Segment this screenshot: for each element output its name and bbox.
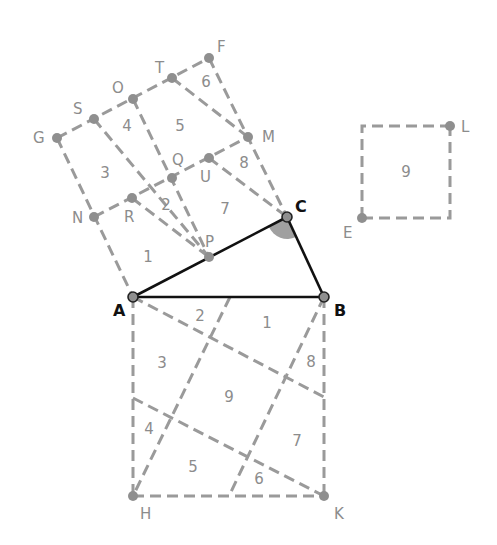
upper-piece-7: 7 [220,200,230,218]
triangle-ABC [133,217,324,297]
lower-piece-6: 6 [254,470,264,488]
point-Q [167,173,177,183]
points [52,53,455,501]
point-O [128,94,138,104]
point-N [89,212,99,222]
upper-piece-2: 2 [161,196,171,214]
label-T: T [154,59,165,77]
label-R: R [124,208,134,226]
label-H: H [140,505,151,523]
label-A: A [113,301,126,320]
lower-piece-numbers: 1 2 3 4 5 6 7 8 9 [144,307,316,488]
point-S [89,114,99,124]
lower-piece-8: 8 [306,353,316,371]
lower-piece-3: 3 [157,354,167,372]
pythagorean-dissection-diagram: F T O S G M Q U R N P L E H K A B C 1 2 … [0,0,497,545]
label-P: P [205,233,214,251]
point-E [357,213,367,223]
point-G [52,133,62,143]
upper-piece-6: 6 [201,73,211,91]
label-G: G [33,129,45,147]
lower-piece-4: 4 [144,420,154,438]
point-B [319,292,329,302]
label-L: L [461,118,470,136]
small-piece-9: 9 [401,163,411,181]
lower-piece-5: 5 [188,458,198,476]
point-T [167,73,177,83]
label-N: N [72,209,83,227]
upper-piece-4: 4 [122,117,132,135]
label-S: S [73,100,83,118]
lower-piece-9: 9 [224,388,234,406]
label-K: K [334,505,345,523]
point-labels: F T O S G M Q U R N P L E H K A B C [33,38,470,523]
point-M [243,132,253,142]
point-L [445,121,455,131]
label-O: O [112,79,124,97]
lower-piece-2: 2 [195,307,205,325]
upper-piece-1: 1 [143,248,153,266]
label-U: U [200,168,211,186]
upper-piece-5: 5 [175,117,185,135]
cut-B [229,297,324,496]
point-F [204,53,214,63]
point-R [127,193,137,203]
lower-piece-1: 1 [262,314,272,332]
upper-piece-8: 8 [239,154,249,172]
point-K [319,491,329,501]
point-H [128,491,138,501]
label-B: B [334,301,346,320]
point-P [204,252,214,262]
point-U [204,153,214,163]
label-F: F [217,38,226,56]
label-M: M [262,128,275,146]
side-CB [287,217,324,297]
upper-piece-3: 3 [100,164,110,182]
label-E: E [343,224,352,242]
lower-piece-7: 7 [292,432,302,450]
label-Q: Q [172,151,184,169]
point-C [282,212,292,222]
point-A [128,292,138,302]
label-C: C [295,197,307,216]
cut-A [133,297,324,397]
cut-H [133,297,230,496]
